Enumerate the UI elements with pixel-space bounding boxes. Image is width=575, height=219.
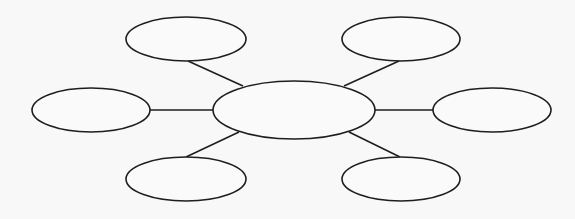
node-top-right xyxy=(342,17,460,61)
node-bottom-left-ellipse xyxy=(126,157,246,201)
node-top-left xyxy=(126,17,246,61)
connector-center-top-left xyxy=(188,61,243,86)
center-node-ellipse xyxy=(213,81,375,139)
connector-center-top-right xyxy=(344,61,399,86)
node-left xyxy=(32,88,150,132)
connector-center-bottom-left xyxy=(186,132,239,157)
diagram-canvas xyxy=(0,0,575,219)
bubble-map-diagram xyxy=(0,0,575,219)
node-bottom-right-ellipse xyxy=(342,157,460,201)
node-bottom-right xyxy=(342,157,460,201)
center-node xyxy=(213,81,375,139)
connector-center-bottom-right xyxy=(349,132,400,157)
node-bottom-left xyxy=(126,157,246,201)
node-top-right-ellipse xyxy=(342,17,460,61)
node-left-ellipse xyxy=(32,88,150,132)
node-right-ellipse xyxy=(433,88,551,132)
node-top-left-ellipse xyxy=(126,17,246,61)
node-right xyxy=(433,88,551,132)
nodes xyxy=(32,17,551,201)
